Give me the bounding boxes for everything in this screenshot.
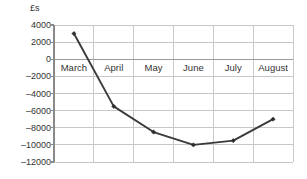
y-axis-tick-label: –12000 [7, 158, 51, 167]
x-axis-category-label: June [173, 59, 213, 76]
x-axis-category-label: July [213, 59, 253, 76]
y-axis-tick-label: –8000 [7, 123, 51, 132]
y-axis-tick-label: 4000 [7, 21, 51, 30]
y-axis-tick-label: –2000 [7, 72, 51, 81]
x-axis-category-label: March [54, 59, 94, 76]
y-axis-tick-labels: 400020000–2000–4000–6000–8000–10000–1200… [0, 0, 51, 179]
y-axis-tick-label: 2000 [7, 38, 51, 47]
y-axis-tick-label: –4000 [7, 89, 51, 98]
chart-series-line [54, 25, 293, 162]
y-axis-tick-label: –6000 [7, 106, 51, 115]
x-axis-category-label: May [134, 59, 174, 76]
x-axis-category-label: April [94, 59, 134, 76]
x-axis-category-label: August [253, 59, 293, 76]
plot-area [54, 25, 293, 162]
x-axis-category-labels: MarchAprilMayJuneJulyAugust [54, 59, 293, 76]
y-axis-tick-label: –10000 [7, 140, 51, 149]
y-axis-tick-label: 0 [7, 55, 51, 64]
line-chart: £s 400020000–2000–4000–6000–8000–10000–1… [0, 0, 307, 179]
